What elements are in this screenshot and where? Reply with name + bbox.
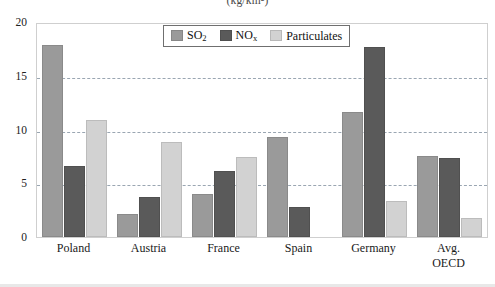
bar (417, 156, 438, 237)
bar (86, 120, 107, 237)
bar (117, 214, 138, 237)
bar (236, 157, 257, 237)
bar (289, 207, 310, 237)
x-axis: PolandAustriaFranceSpainGermanyAvg. OECD (36, 241, 488, 287)
legend-label: SO2 (187, 29, 207, 43)
y-tick-label: 15 (16, 71, 28, 83)
legend-item: SO2 (171, 29, 207, 43)
x-axis-label: France (186, 241, 261, 256)
bar (267, 137, 288, 237)
bar (439, 158, 460, 237)
legend-label: NOx (236, 29, 258, 43)
legend-swatch (270, 30, 282, 41)
bar (461, 218, 482, 237)
bar (64, 166, 85, 237)
legend-item: Particulates (270, 30, 342, 42)
legend-label: Particulates (286, 30, 342, 42)
bar (161, 142, 182, 237)
bars-layer (37, 24, 487, 237)
bar-group (417, 24, 482, 237)
bar (364, 47, 385, 237)
x-axis-label: Austria (111, 241, 186, 256)
bar-group (267, 24, 332, 237)
y-tick-label: 0 (21, 232, 27, 244)
bar-group (117, 24, 182, 237)
bar-group (192, 24, 257, 237)
bar (192, 194, 213, 237)
y-tick-label: 5 (21, 179, 27, 191)
x-axis-label: Germany (336, 241, 411, 256)
bar (42, 45, 63, 237)
bar-chart: (kg/km²) 05101520 PolandAustriaFranceSpa… (0, 0, 495, 287)
bar (214, 171, 235, 237)
x-axis-label: Avg. OECD (411, 241, 486, 271)
y-axis: 05101520 (0, 23, 33, 238)
legend-swatch (171, 30, 183, 41)
chart-legend: SO2NOxParticulates (163, 25, 350, 47)
bar (139, 197, 160, 237)
bar (386, 201, 407, 237)
legend-item: NOx (220, 29, 258, 43)
legend-swatch (220, 30, 232, 41)
bar (342, 112, 363, 237)
bar-group (42, 24, 107, 237)
x-axis-label: Spain (261, 241, 336, 256)
chart-title: (kg/km²) (0, 0, 495, 6)
y-tick-label: 10 (16, 125, 28, 137)
x-axis-label: Poland (36, 241, 111, 256)
bar-group (342, 24, 407, 237)
y-tick-label: 20 (16, 17, 28, 29)
